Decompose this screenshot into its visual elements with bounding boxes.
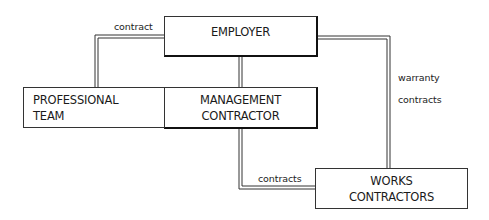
edge-label-warranty: warranty	[398, 72, 440, 83]
node-professional-team-line1: PROFESSIONAL	[33, 92, 118, 108]
node-professional-team-line2: TEAM	[33, 108, 64, 124]
edge-label-contract: contract	[114, 21, 153, 32]
edge-label-contracts: contracts	[258, 173, 302, 184]
node-employer: EMPLOYER	[164, 16, 318, 57]
node-employer-label: EMPLOYER	[211, 24, 270, 40]
node-professional-team: PROFESSIONAL TEAM	[23, 87, 165, 128]
node-management-contractor-line1: MANAGEMENT	[200, 92, 281, 108]
edge-label-warranty-contracts: contracts	[398, 94, 442, 105]
node-management-contractor-line2: CONTRACTOR	[202, 108, 280, 124]
node-management-contractor: MANAGEMENT CONTRACTOR	[164, 87, 318, 129]
node-works-contractors-line1: WORKS	[370, 173, 412, 189]
node-works-contractors: WORKS CONTRACTORS	[315, 168, 468, 209]
node-works-contractors-line2: CONTRACTORS	[349, 189, 434, 205]
